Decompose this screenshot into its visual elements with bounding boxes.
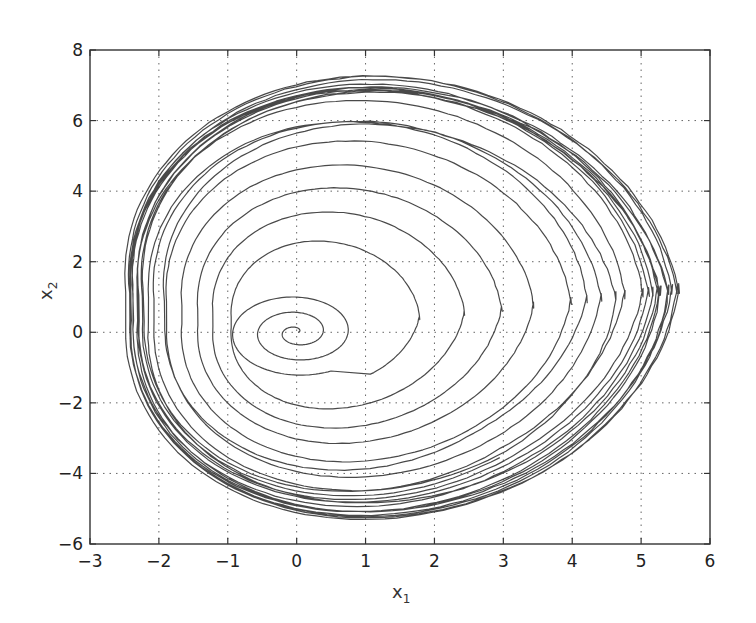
x-tick-label: 2	[429, 551, 440, 571]
x-axis-label: x1	[392, 581, 410, 606]
trajectory-line	[125, 76, 680, 520]
y-axis-label: x2	[35, 282, 60, 300]
x-tick-label: −1	[215, 551, 240, 571]
x-tick-label: 0	[291, 551, 302, 571]
y-tick-label: −4	[58, 463, 83, 483]
x-axis-tick-labels: −3−2−10123456	[77, 551, 715, 571]
x-tick-label: 4	[567, 551, 578, 571]
y-tick-label: 6	[72, 111, 83, 131]
y-tick-label: 2	[72, 252, 83, 272]
y-tick-label: −2	[58, 393, 83, 413]
y-axis-tick-labels: −6−4−202468	[58, 40, 83, 554]
x-tick-label: 6	[705, 551, 716, 571]
x-tick-label: −2	[146, 551, 171, 571]
phase-portrait-figure: −3−2−10123456 −6−4−202468 x1 x2	[0, 0, 756, 623]
y-tick-label: 8	[72, 40, 83, 60]
y-tick-label: 4	[72, 181, 83, 201]
y-tick-label: 0	[72, 322, 83, 342]
x-tick-label: 3	[498, 551, 509, 571]
x-tick-label: 5	[636, 551, 647, 571]
y-tick-label: −6	[58, 534, 83, 554]
trajectory-plot	[125, 76, 680, 520]
x-tick-label: −3	[77, 551, 102, 571]
x-tick-label: 1	[360, 551, 371, 571]
